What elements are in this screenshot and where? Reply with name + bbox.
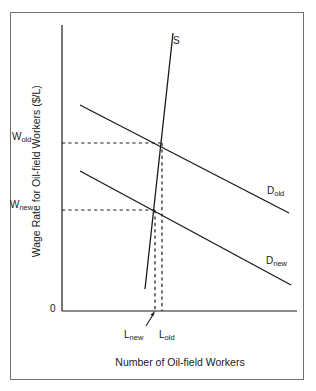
w-old-label: Wold [12,132,31,142]
l-old-label-base: L [159,329,165,340]
l-new-arrow-head [151,311,156,316]
figure-container: Wage Rate for Oil-field Workers ($/L) Nu… [0,0,316,391]
l-new-label-base: L [124,329,130,340]
x-axis-title: Number of Oil-field Workers [62,357,298,368]
w-new-label-sub: new [19,203,33,212]
l-old-label: Lold [159,330,175,340]
y-axis-title: Wage Rate for Oil-field Workers ($/L) [31,66,42,276]
l-new-label: Lnew [124,330,143,340]
w-new-label: Wnew [10,200,33,210]
origin-label: 0 [50,304,56,314]
demand-old-curve-label: Dold [267,186,284,196]
demand-new-curve-label: Dnew [266,256,287,266]
demand-curve-d-old [80,105,289,213]
l-new-label-sub: new [130,333,144,342]
demand-old-label-sub: old [274,189,284,198]
supply-curve-s [145,33,173,289]
w-old-label-sub: old [21,135,31,144]
demand-curve-d-new [80,171,291,285]
l-old-label-sub: old [165,333,175,342]
demand-new-label-sub: new [273,259,287,268]
supply-curve-label: S [173,36,180,46]
